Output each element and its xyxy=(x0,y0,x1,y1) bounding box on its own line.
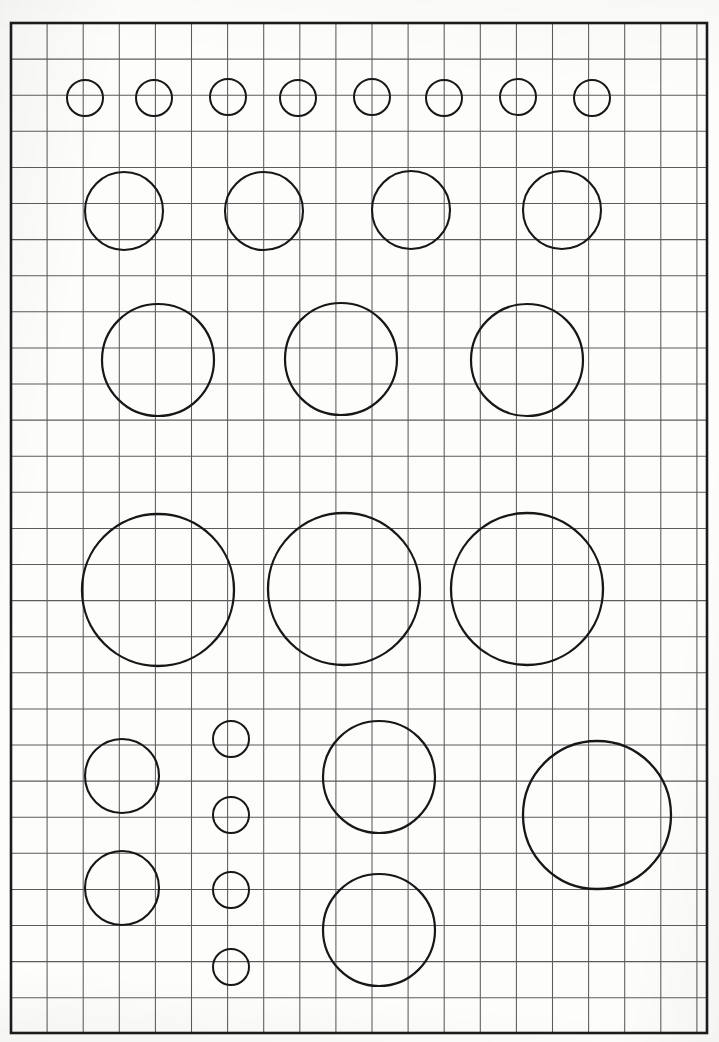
paper-background xyxy=(0,0,719,1042)
graph-paper-sheet xyxy=(0,0,719,1042)
grid-and-circles-canvas xyxy=(0,0,719,1042)
